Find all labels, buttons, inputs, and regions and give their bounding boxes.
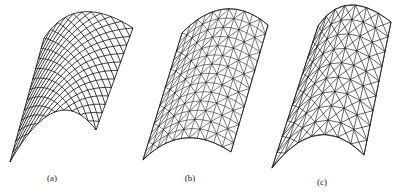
reticulated-shell-meshes — [0, 0, 407, 192]
caption-a: (a) — [47, 173, 57, 183]
lattice-shell-figure: (a) (b) (c) — [0, 0, 407, 192]
caption-c: (c) — [317, 177, 327, 187]
caption-b: (b) — [185, 173, 196, 183]
shell-mesh-b — [143, 9, 268, 160]
shell-mesh-c — [272, 5, 391, 168]
shell-mesh-a — [10, 12, 133, 162]
